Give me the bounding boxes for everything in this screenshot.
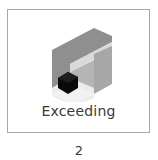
isometric-block-icon — [42, 22, 122, 102]
level-card[interactable]: Exceeding — [7, 9, 150, 133]
page-number: 2 — [0, 143, 158, 158]
level-label: Exceeding — [8, 103, 149, 119]
